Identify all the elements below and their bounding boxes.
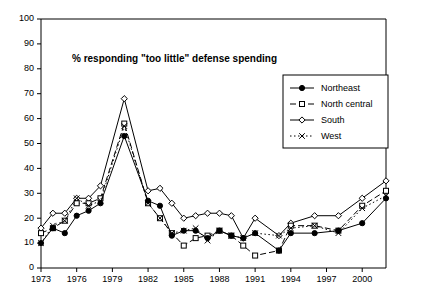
y-axis: 0102030405060708090100 (19, 13, 41, 272)
data-point (228, 213, 234, 219)
data-point (98, 201, 103, 206)
x-axis: 1973197619791982198519881991199419972000 (31, 268, 372, 284)
y-tick-label: 30 (24, 188, 34, 198)
data-point (384, 188, 389, 193)
data-point (276, 248, 281, 253)
data-point (39, 231, 44, 236)
data-point (217, 228, 222, 233)
data-point (169, 233, 174, 238)
x-tick-label: 1976 (67, 274, 87, 284)
y-tick-label: 0 (29, 262, 34, 272)
legend-label: North central (321, 99, 373, 109)
x-tick-label: 1991 (245, 274, 265, 284)
data-point (74, 213, 79, 218)
data-point (181, 243, 186, 248)
data-point (121, 96, 127, 102)
x-tick-label: 2000 (352, 274, 372, 284)
data-point (157, 203, 162, 208)
legend-label: Northeast (321, 83, 361, 93)
data-point (50, 226, 55, 231)
x-tick-label: 1973 (31, 274, 51, 284)
data-point (216, 210, 222, 216)
data-point (193, 228, 198, 233)
data-point (193, 236, 198, 241)
legend-label: South (321, 115, 345, 125)
data-point (204, 210, 210, 216)
y-tick-label: 60 (24, 113, 34, 123)
data-point (122, 133, 127, 138)
legend-marker (299, 85, 304, 90)
y-tick-label: 70 (24, 88, 34, 98)
data-point (312, 213, 318, 219)
x-tick-label: 1997 (317, 274, 337, 284)
y-tick-label: 80 (24, 63, 34, 73)
data-point (288, 223, 293, 228)
legend-label: West (321, 131, 342, 141)
data-point (288, 231, 293, 236)
data-point (253, 253, 258, 258)
x-tick-label: 1985 (174, 274, 194, 284)
data-point (145, 188, 151, 194)
data-point (383, 196, 388, 201)
legend: NortheastNorth centralSouthWest (283, 75, 388, 148)
data-point (241, 243, 246, 248)
data-point (241, 236, 246, 241)
x-tick-label: 1994 (281, 274, 301, 284)
data-point (181, 228, 186, 233)
y-tick-label: 10 (24, 237, 34, 247)
x-tick-label: 1988 (209, 274, 229, 284)
data-point (86, 201, 91, 206)
x-tick-label: 1982 (138, 274, 158, 284)
y-tick-label: 100 (19, 13, 34, 23)
data-point (229, 233, 234, 238)
data-point (145, 198, 150, 203)
legend-marker (300, 102, 305, 107)
data-point (360, 221, 365, 226)
data-point (360, 203, 365, 208)
data-point (253, 231, 258, 236)
data-point (62, 231, 67, 236)
data-point (336, 228, 341, 233)
data-point (86, 208, 91, 213)
y-tick-label: 40 (24, 163, 34, 173)
defense-spending-line-chart: 0102030405060708090100197319761979198219… (0, 0, 425, 307)
x-tick-label: 1979 (102, 274, 122, 284)
data-point (312, 231, 317, 236)
y-tick-label: 20 (24, 213, 34, 223)
y-tick-label: 50 (24, 138, 34, 148)
chart-canvas: 0102030405060708090100197319761979198219… (0, 0, 425, 307)
data-point (205, 236, 210, 241)
data-point (74, 201, 79, 206)
y-tick-label: 90 (24, 38, 34, 48)
data-point (38, 241, 43, 246)
chart-title: % responding "too little" defense spendi… (72, 53, 277, 64)
data-point (193, 213, 199, 219)
